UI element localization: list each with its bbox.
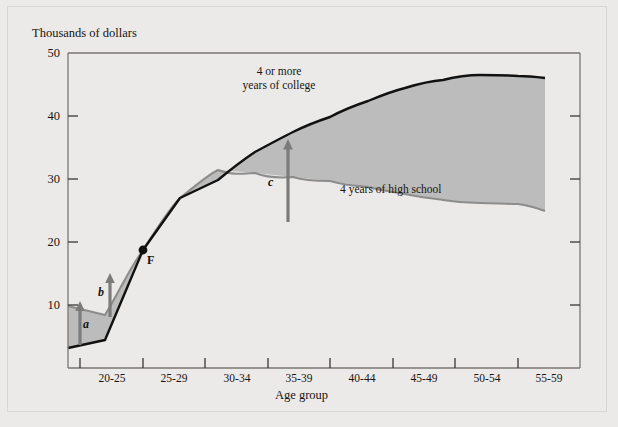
annotation-label-b: b [98, 285, 104, 300]
y-tick-label-40: 40 [38, 109, 60, 124]
x-tick-label-40-44: 40-44 [336, 372, 388, 384]
x-tick-label-35-39: 35-39 [273, 372, 325, 384]
x-tick-label-55-59: 55-59 [523, 372, 575, 384]
area-between-curves [68, 75, 545, 348]
annotation-label-f: F [147, 253, 154, 268]
x-tick-label-30-34: 30-34 [211, 372, 263, 384]
figure-canvas: Thousands of dollars Age group 50 40 30 … [0, 0, 618, 427]
y-tick-label-10: 10 [38, 298, 60, 313]
y-axis-title: Thousands of dollars [32, 26, 137, 41]
series-label-college-line1: 4 or more [219, 64, 339, 78]
x-tick-label-20-25: 20-25 [86, 372, 138, 384]
y-tick-label-20: 20 [38, 235, 60, 250]
x-tick-label-45-49: 45-49 [398, 372, 450, 384]
series-label-college: 4 or more years of college [219, 64, 339, 93]
series-label-high-school: 4 years of high school [340, 183, 442, 195]
annotation-label-c: c [268, 175, 273, 190]
x-tick-label-50-54: 50-54 [461, 372, 513, 384]
y-tick-label-50: 50 [38, 46, 60, 61]
annotation-label-a: a [83, 317, 89, 332]
x-tick-label-25-29: 25-29 [148, 372, 200, 384]
x-axis-ticks [80, 358, 518, 368]
series-label-college-line2: years of college [219, 78, 339, 92]
y-tick-label-30: 30 [38, 172, 60, 187]
x-axis-title: Age group [275, 388, 328, 403]
